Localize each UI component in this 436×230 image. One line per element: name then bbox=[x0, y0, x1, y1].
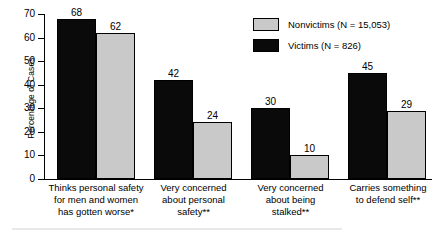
y-tick-label-70: 70 bbox=[9, 8, 35, 19]
legend-label-victims: Victims (N = 826) bbox=[288, 40, 361, 51]
x-axis-line bbox=[44, 179, 432, 180]
category-label-3-line-3: stalked** bbox=[233, 206, 348, 218]
bar-victims-1: 68 bbox=[57, 19, 96, 179]
bar-victims-3: 30 bbox=[251, 108, 290, 179]
bar-value-victims-3: 30 bbox=[265, 96, 276, 107]
caption-cutoff-sliver bbox=[12, 228, 342, 230]
x-axis-category-labels: Thinks personal safety for men and women… bbox=[44, 182, 432, 230]
y-tick-label-10: 10 bbox=[9, 149, 35, 160]
category-label-4: Carries something to defend self** bbox=[329, 182, 436, 206]
legend-item-victims: Victims (N = 826) bbox=[253, 37, 433, 54]
category-label-4-line-1: Carries something bbox=[329, 182, 436, 194]
bar-value-nonvictims-2: 24 bbox=[207, 110, 218, 121]
y-tick-label-20: 20 bbox=[9, 126, 35, 137]
legend-item-nonvictims: Nonvictims (N = 15,053) bbox=[253, 16, 433, 33]
bar-value-victims-1: 68 bbox=[71, 7, 82, 18]
y-tick-label-40: 40 bbox=[9, 79, 35, 90]
y-tick-label-50: 50 bbox=[9, 55, 35, 66]
bar-value-victims-2: 42 bbox=[168, 68, 179, 79]
bar-value-nonvictims-4: 29 bbox=[401, 99, 412, 110]
bar-victims-2: 42 bbox=[154, 80, 193, 179]
bar-nonvictims-3: 10 bbox=[290, 155, 329, 179]
bar-chart: Percentage of Cases 70 60 50 40 30 20 10… bbox=[0, 0, 436, 230]
y-tick-label-0: 0 bbox=[9, 173, 35, 184]
legend-swatch-nonvictims-icon bbox=[253, 18, 279, 31]
bar-nonvictims-1: 62 bbox=[96, 33, 135, 179]
bar-victims-4: 45 bbox=[348, 73, 387, 179]
legend-swatch-victims-icon bbox=[253, 39, 279, 52]
bar-value-nonvictims-1: 62 bbox=[110, 21, 121, 32]
category-label-4-line-2: to defend self** bbox=[329, 194, 436, 206]
bar-nonvictims-2: 24 bbox=[193, 122, 232, 179]
chart-legend: Nonvictims (N = 15,053) Victims (N = 826… bbox=[253, 16, 433, 58]
y-tick-0: 0 bbox=[38, 179, 45, 180]
y-tick-label-30: 30 bbox=[9, 102, 35, 113]
bar-value-nonvictims-3: 10 bbox=[304, 143, 315, 154]
legend-label-nonvictims: Nonvictims (N = 15,053) bbox=[288, 19, 390, 30]
bar-nonvictims-4: 29 bbox=[387, 111, 426, 179]
y-tick-label-60: 60 bbox=[9, 32, 35, 43]
bar-value-victims-4: 45 bbox=[362, 61, 373, 72]
